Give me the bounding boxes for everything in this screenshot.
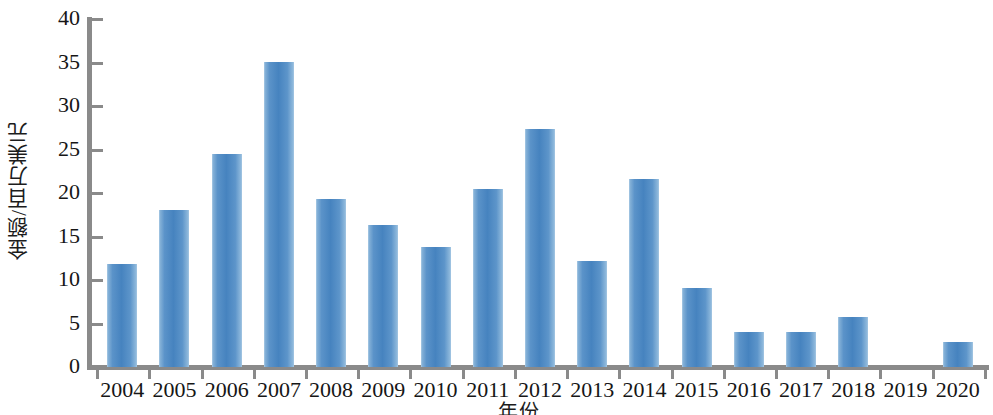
- bar: [682, 288, 712, 367]
- bar: [316, 199, 346, 367]
- y-axis-tick: [92, 62, 103, 65]
- y-axis-tick-label: 30: [36, 94, 80, 116]
- y-axis-tick-label: 5: [36, 312, 80, 334]
- y-axis-tick: [92, 279, 103, 282]
- bar: [786, 332, 816, 367]
- y-axis-tick: [92, 18, 103, 21]
- y-axis-tick: [92, 149, 103, 152]
- bar: [368, 225, 398, 367]
- bar: [473, 189, 503, 367]
- bar: [577, 261, 607, 367]
- y-axis-tick: [92, 105, 103, 108]
- y-axis-tick-label: 35: [36, 51, 80, 73]
- x-axis-title: 年份: [0, 396, 993, 415]
- bar: [107, 264, 137, 367]
- y-axis-tick: [92, 192, 103, 195]
- y-axis-tick-label: 10: [36, 268, 80, 290]
- bar: [159, 210, 189, 367]
- y-axis-tick-label: 0: [36, 355, 80, 377]
- y-axis-title: 金额/百万美元: [2, 0, 36, 380]
- y-axis-tick: [92, 323, 103, 326]
- x-axis-title-text: 年份: [498, 401, 540, 415]
- x-axis-tick: [984, 370, 987, 379]
- y-axis-tick: [92, 236, 103, 239]
- bar: [264, 62, 294, 367]
- bar: [838, 317, 868, 367]
- bar: [421, 247, 451, 367]
- bar: [212, 154, 242, 367]
- y-axis-tick: [92, 366, 103, 369]
- y-axis-tick-label: 15: [36, 225, 80, 247]
- bar: [629, 179, 659, 367]
- y-axis-tick-label: 40: [36, 7, 80, 29]
- y-axis-title-text: 金额/百万美元: [4, 121, 34, 260]
- bar: [943, 342, 973, 367]
- y-axis-tick-label: 20: [36, 181, 80, 203]
- bar-chart: 金额/百万美元 0510152025303540 200420052006200…: [0, 0, 993, 415]
- y-axis-tick-label: 25: [36, 138, 80, 160]
- bar: [525, 129, 555, 367]
- bar: [734, 332, 764, 367]
